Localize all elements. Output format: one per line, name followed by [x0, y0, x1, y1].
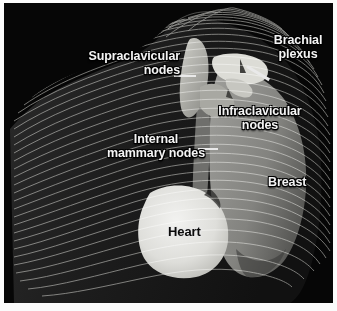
- figure-root: Supraclavicular nodes Brachial plexus In…: [0, 0, 337, 311]
- anatomy-vector-layer: [4, 3, 333, 303]
- heart-shape: [138, 186, 228, 279]
- anatomy-illustration-canvas: Supraclavicular nodes Brachial plexus In…: [4, 3, 333, 303]
